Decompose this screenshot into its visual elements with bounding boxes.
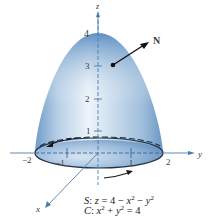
y-tick-neg2: −2: [22, 155, 32, 165]
y-tick-1: 1: [129, 159, 133, 168]
z-tick-2: 2: [85, 94, 90, 104]
eq-text: = 4: [124, 205, 140, 216]
z-axis-arrowhead: [96, 11, 100, 17]
paraboloid-diagram: z 4 3 2 1 y −2 −1 1 2 x N: [0, 0, 209, 222]
eq-text: +: [105, 205, 116, 216]
curve-equation: C: x2 + y2 = 4: [84, 206, 154, 216]
exp: 2: [151, 194, 155, 202]
y-axis-arrowhead: [188, 151, 195, 155]
normal-label: N: [153, 35, 161, 46]
equation-caption: S: z = 4 − x2 − y2 C: x2 + y2 = 4: [84, 196, 154, 216]
z-tick-4: 4: [84, 28, 89, 39]
z-tick-3: 3: [85, 61, 90, 71]
x-axis-label: x: [35, 204, 40, 214]
orientation-arrow-front: [104, 173, 128, 178]
y-tick-2: 2: [166, 157, 171, 167]
x-axis-arrowhead: [45, 201, 51, 208]
y-axis-label: y: [197, 149, 202, 159]
y-tick-neg1: −1: [56, 159, 65, 168]
z-axis-label: z: [95, 2, 100, 11]
z-tick-1: 1: [86, 126, 91, 136]
curve-name: C: [84, 205, 91, 216]
orientation-arrowhead-front: [126, 170, 133, 175]
normal-arrowhead: [140, 42, 149, 49]
paraboloid-top-shading: [35, 33, 163, 153]
